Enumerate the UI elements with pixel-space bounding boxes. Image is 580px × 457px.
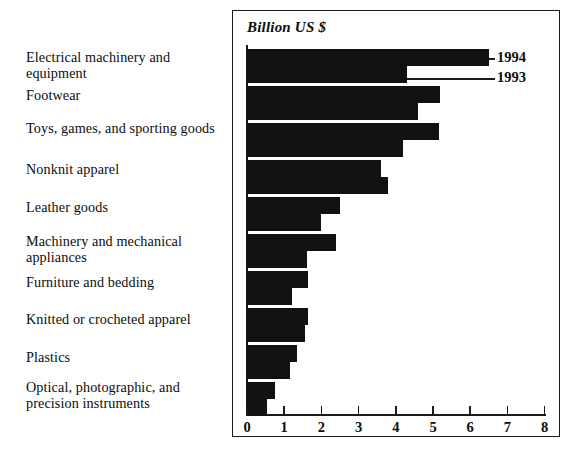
bar-1994-6 [247,271,308,288]
legend-label-1994: 1994 [497,49,526,66]
category-label-optical-instruments: Optical, photographic, and precision ins… [26,379,231,412]
bar-1994-1 [247,86,440,103]
bar-1994-9 [247,382,275,399]
category-label-footwear: Footwear [26,87,231,103]
x-tick-1 [283,406,285,415]
x-tick-label-6: 6 [467,419,474,436]
x-tick-6 [469,406,471,415]
category-label-furniture-bedding: Furniture and bedding [26,274,231,290]
category-label-machinery-mechanical: Machinery and mechanical appliances [26,233,231,266]
x-tick-label-0: 0 [243,419,250,436]
bar-1993-3 [247,177,388,194]
plot-area: 01234567819941993 [233,11,559,436]
x-tick-label-8: 8 [541,419,548,436]
category-label-toys-games: Toys, games, and sporting goods [26,120,231,136]
x-tick-4 [395,406,397,415]
x-tick-label-5: 5 [429,419,436,436]
bar-1994-0 [247,49,489,66]
legend-label-1993: 1993 [497,69,526,86]
category-label-plastics: Plastics [26,349,231,365]
x-tick-8 [544,406,546,415]
category-label-nonknit-apparel: Nonknit apparel [26,161,231,177]
bar-1994-3 [247,160,381,177]
x-tick-3 [358,406,360,415]
bar-1993-7 [247,325,305,342]
bar-1993-5 [247,251,307,268]
chart-plot-frame: Billion US $ 01234567819941993 [232,10,560,437]
legend-leader-line-1994 [489,58,495,60]
category-label-leather-goods: Leather goods [26,199,231,215]
chart-figure: Electrical machinery and equipment Footw… [0,0,580,457]
x-tick-0 [246,406,248,415]
bar-1993-2 [247,140,403,157]
x-tick-label-4: 4 [392,419,399,436]
bar-1994-4 [247,197,340,214]
bar-1993-6 [247,288,292,305]
x-tick-label-2: 2 [318,419,325,436]
x-tick-label-1: 1 [281,419,288,436]
bar-1993-0 [247,66,407,83]
x-tick-label-7: 7 [504,419,511,436]
bar-1993-1 [247,103,418,120]
category-label-electrical-machinery: Electrical machinery and equipment [26,49,231,82]
category-label-knitted-apparel: Knitted or crocheted apparel [26,311,231,327]
x-tick-2 [321,406,323,415]
x-tick-5 [432,406,434,415]
category-label-column: Electrical machinery and equipment Footw… [0,0,232,457]
x-tick-7 [507,406,509,415]
legend-leader-line-1993 [407,78,495,80]
bar-1994-8 [247,345,297,362]
bar-1994-5 [247,234,336,251]
bar-1994-2 [247,123,439,140]
x-tick-label-3: 3 [355,419,362,436]
bar-1993-9 [247,399,267,416]
bar-1993-4 [247,214,321,231]
bar-1994-7 [247,308,308,325]
bar-1993-8 [247,362,290,379]
